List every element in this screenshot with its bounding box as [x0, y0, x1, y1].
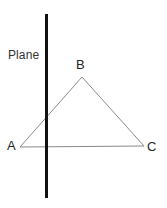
geometry-diagram — [0, 0, 167, 208]
plane-label: Plane — [8, 49, 39, 61]
diagram-canvas: Plane A B C — [0, 0, 167, 208]
vertex-label-b: B — [76, 58, 85, 71]
vertex-label-c: C — [147, 140, 156, 153]
diagram-background — [0, 0, 167, 208]
vertex-label-a: A — [7, 139, 16, 152]
